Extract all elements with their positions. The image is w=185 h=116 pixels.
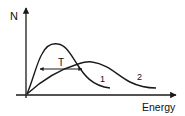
curve-2-label: 2 <box>137 72 142 82</box>
diagram-canvas: N Energy T 1 2 <box>0 0 185 116</box>
width-marker-label: T <box>58 57 64 68</box>
curve-1-label: 1 <box>100 74 105 84</box>
y-axis-label: N <box>10 10 18 22</box>
x-axis-label: Energy <box>142 101 176 113</box>
